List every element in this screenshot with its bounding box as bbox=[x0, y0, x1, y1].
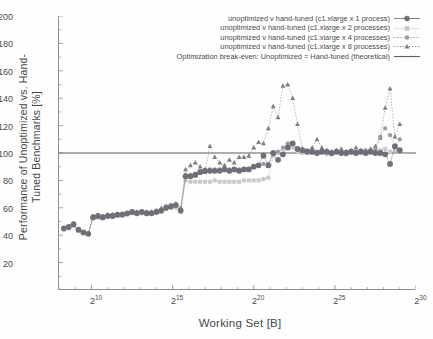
legend-item: unoptimized v hand-tuned (c1.xlarge x 2 … bbox=[188, 23, 420, 32]
legend-item: unoptimized v hand-tuned (c1.xlarge x 1 … bbox=[188, 14, 420, 23]
legend-item: unoptimized v hand-tuned (c1.xlarge x 4 … bbox=[188, 33, 420, 42]
x-axis-title: Working Set [B] bbox=[60, 317, 420, 329]
legend-label: unoptimized v hand-tuned (c1.xlarge x 2 … bbox=[220, 23, 390, 32]
legend-label: unoptimized v hand-tuned (c1.xlarge x 8 … bbox=[220, 42, 390, 51]
y-tick-label: 60 bbox=[0, 204, 13, 214]
x-tick-exponent: 20 bbox=[257, 294, 264, 301]
x-tick-label: 230 bbox=[400, 294, 433, 306]
legend-label: Optimization break-even: Unoptimized = H… bbox=[177, 52, 390, 61]
x-tick-label: 215 bbox=[157, 294, 197, 306]
legend-label: unoptimized v hand-tuned (c1.xlarge x 4 … bbox=[220, 33, 390, 42]
series-2 bbox=[62, 143, 402, 236]
y-tick-label: 200 bbox=[0, 12, 13, 22]
x-tick-exponent: 10 bbox=[95, 294, 102, 301]
legend-key-triangle-dotted-dark-icon bbox=[394, 42, 420, 51]
legend: unoptimized v hand-tuned (c1.xlarge x 1 … bbox=[188, 14, 420, 61]
legend-key-circle-solid-dark-icon bbox=[394, 14, 420, 23]
legend-item: Optimization break-even: Unoptimized = H… bbox=[188, 52, 420, 61]
y-tick-label: 80 bbox=[0, 176, 13, 186]
x-tick-exponent: 25 bbox=[338, 294, 345, 301]
y-tick-label: 100 bbox=[0, 149, 13, 159]
y-tick-label: 120 bbox=[0, 122, 13, 132]
y-axis-title: Performance of Unoptimized vs. Hand-Tune… bbox=[17, 42, 45, 252]
legend-key-circle-dotted-mid-icon bbox=[394, 33, 420, 42]
legend-key-line-solid-icon bbox=[394, 52, 420, 61]
y-tick-label: 140 bbox=[0, 94, 13, 104]
x-tick-exponent: 15 bbox=[176, 294, 183, 301]
x-tick-label: 210 bbox=[76, 294, 116, 306]
legend-item: unoptimized v hand-tuned (c1.xlarge x 8 … bbox=[188, 42, 420, 51]
x-tick-label: 220 bbox=[238, 294, 278, 306]
series-3 bbox=[62, 126, 402, 236]
legend-key-square-light-icon bbox=[394, 24, 420, 33]
legend-label: unoptimized v hand-tuned (c1.xlarge x 1 … bbox=[228, 14, 390, 23]
x-tick-label: 225 bbox=[319, 294, 359, 306]
y-tick-label: 20 bbox=[0, 259, 13, 269]
x-tick-exponent: 30 bbox=[419, 294, 426, 301]
y-tick-label: 40 bbox=[0, 231, 13, 241]
y-tick-label: 160 bbox=[0, 67, 13, 77]
chart-figure: Performance of Unoptimized vs. Hand-Tune… bbox=[0, 0, 433, 339]
y-tick-label: 180 bbox=[0, 39, 13, 49]
